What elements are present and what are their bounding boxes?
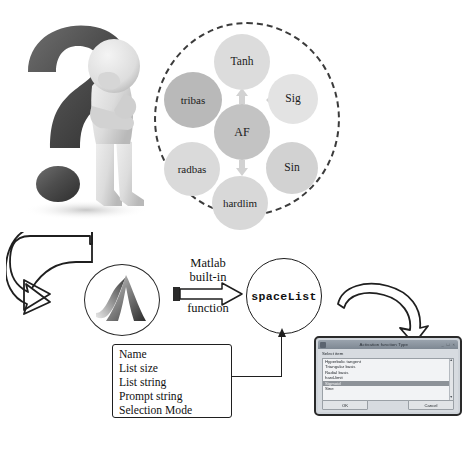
arrow-label-line-1: Matlab [170,256,246,270]
dialog-list-scrollbar[interactable]: ▲ ▼ [449,359,454,400]
list-item[interactable]: Sine [323,386,453,392]
af-node-label: radbas [178,164,207,175]
block-arrow-right [172,282,244,306]
activation-function-diagram: Tanh Sig Sin hardlim radbas tribas AF [148,16,348,224]
list-item: Name [119,348,231,362]
parameter-list-box-border: Name List size List string Prompt string… [112,344,232,418]
parameter-list-box: Name List size List string Prompt string… [112,344,232,418]
matlab-membrane-logo [94,273,150,327]
af-node-label: hardlim [223,198,257,209]
dialog-title: Activation function Type [328,342,439,347]
connector-horizontal [232,376,282,377]
af-node-sin: Sin [266,142,318,194]
af-node-tribas: tribas [164,72,222,128]
spacelist-node: spaceList [246,258,322,334]
list-item: List string [119,376,231,390]
window-app-icon [320,342,326,348]
af-node-label: Sig [285,93,300,105]
dialog-prompt-label: Select item [322,351,454,356]
cancel-button[interactable]: Cancel [408,400,454,410]
parameter-list: Name List size List string Prompt string… [119,348,231,418]
ok-button[interactable]: OK [322,400,368,410]
af-node-hardlim: hardlim [212,176,268,230]
question-mark-person-illustration [4,14,156,222]
af-node-label: tribas [181,95,205,106]
af-node-radbas: radbas [164,142,220,196]
dialog-title-bar[interactable]: Activation function Type _ □ × [318,340,458,349]
spacelist-label: spaceList [251,290,317,303]
dialog-body: Select item Hyperbolic tangent Triangula… [318,349,458,412]
scroll-down-icon[interactable]: ▼ [450,396,453,399]
list-item: Prompt string [119,390,231,404]
af-center-label: AF [234,126,249,138]
listdlg-dialog-window[interactable]: Activation function Type _ □ × Select it… [314,336,462,416]
figure-canvas: Tanh Sig Sin hardlim radbas tribas AF [0,0,465,450]
list-item: List size [119,362,231,376]
window-controls[interactable]: _ □ × [441,342,456,347]
connector-arrowhead [276,328,288,338]
af-node-sig: Sig [268,74,318,124]
af-node-tanh: Tanh [214,34,270,90]
af-node-center: AF [214,104,270,160]
list-item: Selection Mode [119,404,231,418]
af-node-label: Tanh [231,56,254,68]
matlab-logo-node [84,264,160,336]
af-node-label: Sin [284,162,299,174]
dialog-list-box[interactable]: Hyperbolic tangent Triangular basis Radi… [322,358,454,401]
dialog-button-row: OK Cancel [322,400,454,410]
scroll-up-icon[interactable]: ▲ [450,359,453,362]
connector-vertical [281,334,282,377]
